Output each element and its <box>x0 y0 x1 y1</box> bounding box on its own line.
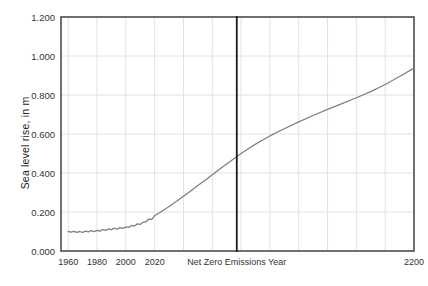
x-tick-label: 2000 <box>116 257 136 267</box>
x-tick-label: 1960 <box>58 257 78 267</box>
x-tick-labels: 19601980200020202200Net Zero Emissions Y… <box>0 0 428 286</box>
chart-figure: Sea level rise, in m 0.0000.2000.4000.60… <box>0 0 428 286</box>
x-axis-title: Net Zero Emissions Year <box>187 257 286 267</box>
x-tick-label: 2200 <box>404 257 424 267</box>
x-tick-label: 2020 <box>145 257 165 267</box>
x-tick-label: 1980 <box>87 257 107 267</box>
